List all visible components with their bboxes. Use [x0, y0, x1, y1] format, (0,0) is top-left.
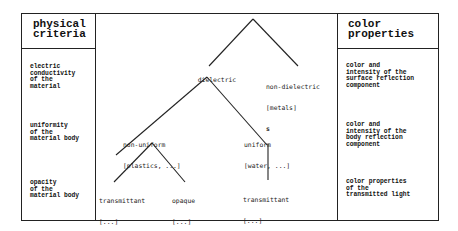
node-examples: [water, ...]	[244, 163, 290, 170]
node-uniform: uniform [water, ...]	[244, 128, 290, 177]
node-label: dielectric	[198, 76, 236, 84]
node-label: non-dielectric	[266, 84, 320, 91]
node-label: transmittant	[243, 197, 289, 204]
node-examples: [plastics, ...]	[123, 163, 181, 170]
node-dielectric: dielectric	[190, 70, 236, 84]
node-label: uniform	[244, 142, 290, 149]
classification-tree-edges	[0, 0, 458, 231]
node-opaque: opaque [...] s+b	[172, 184, 195, 231]
node-label: opaque	[172, 198, 195, 205]
node-label: non-uniform	[123, 142, 181, 149]
node-examples: [...]	[99, 219, 145, 226]
node-non-uniform: non-uniform [plastics, ...]	[123, 128, 181, 177]
node-transmittant-nonuniform: transmittant [...] s+b+t	[99, 184, 145, 231]
node-label: transmittant	[99, 198, 145, 205]
node-transmittant-uniform: transmittant [...] s+t	[243, 183, 289, 231]
node-examples: [...]	[172, 219, 195, 226]
node-examples: [...]	[243, 218, 289, 225]
node-examples: [metals]	[266, 105, 320, 112]
